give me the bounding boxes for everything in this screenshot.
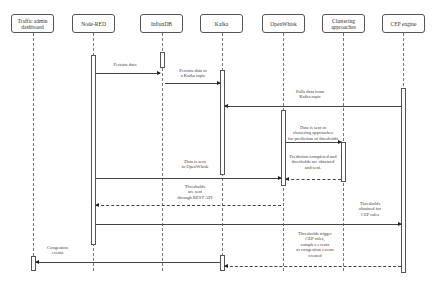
arrow-right-icon [278, 176, 282, 180]
actor-cep-engine: CEP engine [382, 14, 425, 33]
message-label-persists-kafka: Persists data to a Kafka topic [166, 68, 220, 79]
arrow-left-icon [285, 177, 289, 181]
message-label-pulls-data: Pulls data from Kafka topic [280, 89, 340, 100]
message-label-thresholds-rest-api: Thresholds are sent through REST API [165, 184, 225, 200]
activation-cep [401, 88, 406, 273]
message-persists-kafka [165, 83, 220, 84]
message-prediction-completed [286, 179, 341, 180]
actor-clustering-approaches: Clustering approaches [322, 14, 365, 33]
message-persists-data [96, 73, 160, 74]
arrow-left-icon [95, 203, 99, 207]
arrow-right-icon [398, 222, 402, 226]
actor-node-red: Node-RED [72, 14, 115, 33]
message-label-thresholds-trigger: Thresholds trigger CEP rules, complex ev… [285, 231, 345, 258]
message-pulls-data [225, 106, 401, 107]
message-label-sent-to-clustering: Data is sent to clustering approaches fo… [282, 125, 344, 141]
message-thresholds-rest-api [96, 205, 281, 206]
message-thresholds-trigger [225, 266, 401, 267]
message-label-prediction-completed: Prediction completed and thresholds are … [282, 154, 344, 170]
message-sent-to-clustering [286, 142, 341, 143]
arrow-left-icon [35, 260, 39, 264]
message-label-persists-data: Persists data [100, 62, 150, 67]
activation-node-red [91, 55, 96, 245]
message-label-congestion-events: Congestion events [40, 245, 75, 256]
message-thresholds-cep-rules [96, 224, 401, 225]
figure-caption [140, 283, 302, 287]
lifeline-traffic-admin-dashboard [33, 33, 34, 271]
activation-kafka-2 [220, 255, 225, 271]
arrow-right-icon [217, 81, 221, 85]
message-label-thresholds-cep-rules: Thresholds obtained for CEP rules [345, 201, 395, 217]
activation-kafka [220, 70, 225, 175]
actor-kafka: Kafka [200, 14, 243, 33]
message-label-sent-to-openwhisk: Data is sent to OpenWhisk [170, 159, 220, 170]
actor-traffic-admin-dashboard: Traffic admin dashboard [11, 14, 54, 33]
activation-openwhisk [281, 110, 286, 186]
lifeline-influxdb [162, 33, 163, 271]
arrow-right-icon [157, 71, 161, 75]
arrow-left-icon [224, 264, 228, 268]
actor-openwhisk: OpenWhisk [262, 14, 305, 33]
activation-influxdb [160, 52, 165, 68]
message-congestion-events [36, 262, 220, 263]
message-sent-to-openwhisk [96, 178, 281, 179]
actor-influxdb: InfluxDB [140, 14, 183, 33]
arrow-left-icon [224, 104, 228, 108]
arrow-right-icon [338, 140, 342, 144]
